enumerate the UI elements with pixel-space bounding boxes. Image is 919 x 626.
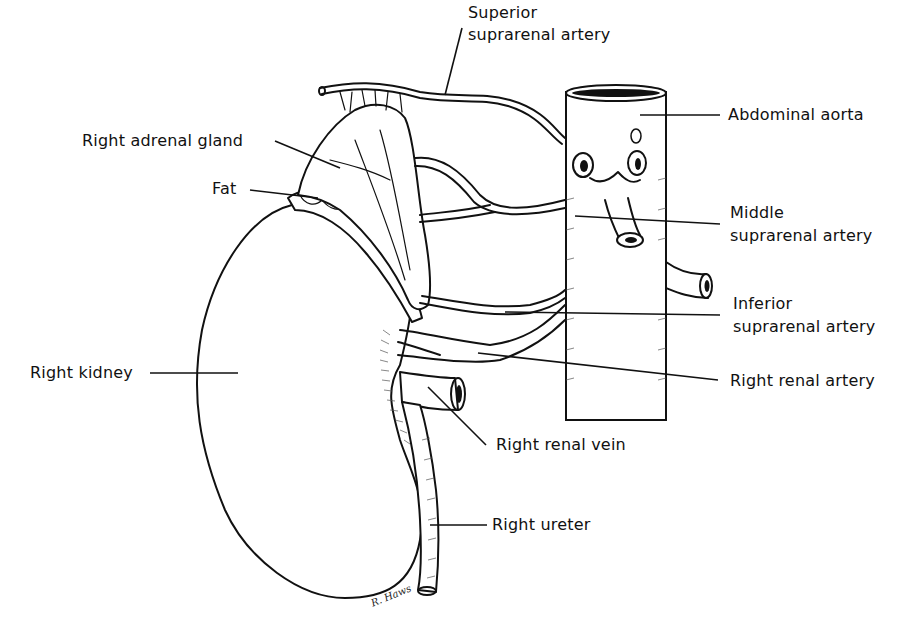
label-right-renal-artery: Right renal artery <box>730 370 875 392</box>
label-superior-suprarenal-artery-line2: suprarenal artery <box>468 24 611 46</box>
label-middle-suprarenal-artery-line1: Middle <box>730 202 784 224</box>
inferior-suprarenal-artery <box>420 290 565 314</box>
label-middle-suprarenal-artery-line2: suprarenal artery <box>730 225 873 247</box>
label-superior-suprarenal-artery-line1: Superior <box>468 2 537 24</box>
middle-suprarenal-artery <box>415 158 565 222</box>
anatomy-diagram: Superior suprarenal artery Abdominal aor… <box>0 0 919 626</box>
label-abdominal-aorta: Abdominal aorta <box>728 104 864 126</box>
label-fat: Fat <box>212 178 236 200</box>
label-inferior-suprarenal-artery-line2: suprarenal artery <box>733 316 876 338</box>
label-right-ureter: Right ureter <box>492 514 591 536</box>
abdominal-aorta <box>566 85 712 420</box>
label-right-kidney: Right kidney <box>30 362 133 384</box>
label-inferior-suprarenal-artery-line1: Inferior <box>733 293 792 315</box>
label-right-renal-vein: Right renal vein <box>496 434 626 456</box>
label-right-adrenal-gland: Right adrenal gland <box>82 130 243 152</box>
